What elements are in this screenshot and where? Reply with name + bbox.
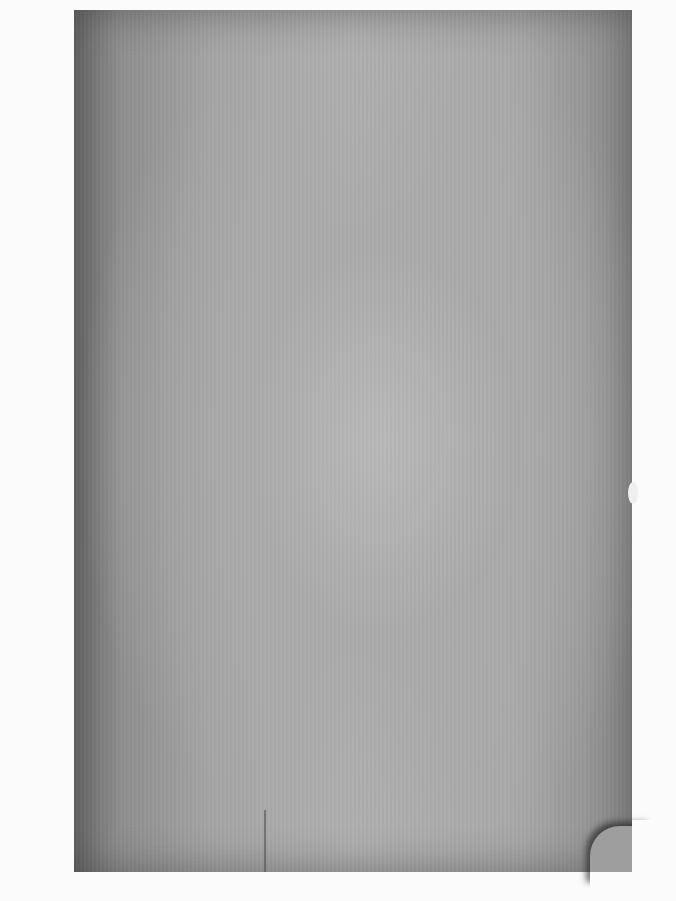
edge-notch xyxy=(628,482,638,504)
scanned-blank-page xyxy=(74,10,632,872)
bottom-mask xyxy=(590,872,676,901)
page-crease xyxy=(264,810,266,872)
